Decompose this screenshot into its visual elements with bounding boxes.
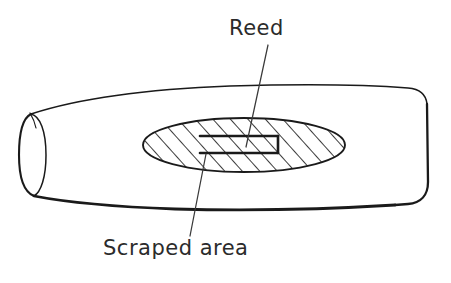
scraped-area-group: [143, 118, 345, 172]
tube-bottom-edge: [34, 196, 395, 210]
tube-right-end: [395, 104, 428, 205]
diagram-canvas: Reed Scraped area: [0, 0, 451, 283]
tube-left-inner-lip: [31, 114, 46, 196]
tube-top-edge: [31, 85, 427, 114]
tube-left-outer-edge: [19, 114, 34, 196]
label-reed: Reed: [229, 16, 284, 40]
label-scraped-area: Scraped area: [103, 236, 248, 260]
